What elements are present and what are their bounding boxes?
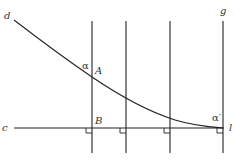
right-angle-marker-1 <box>86 128 92 133</box>
right-angle-marker-2 <box>120 128 126 133</box>
label-alpha-prime: α′ <box>212 112 222 123</box>
label-d: d <box>4 10 10 21</box>
label-l: l <box>229 122 232 133</box>
label-alpha: α <box>82 60 89 71</box>
right-angle-marker-3 <box>164 128 170 133</box>
geometry-diagram: d g c l A B α α′ <box>0 0 234 164</box>
curve-d <box>14 20 223 128</box>
label-B: B <box>94 115 102 126</box>
label-g: g <box>220 5 226 16</box>
label-A: A <box>94 65 102 76</box>
right-angle-marker-4 <box>217 128 223 133</box>
label-c: c <box>2 122 8 133</box>
